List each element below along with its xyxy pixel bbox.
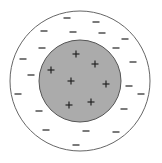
charged-sphere-figure	[0, 0, 162, 163]
inner-core-circle	[39, 40, 121, 122]
charge-diagram	[0, 0, 162, 163]
